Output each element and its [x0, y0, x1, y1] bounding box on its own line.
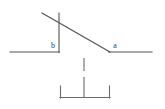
diagram-canvas: b a: [0, 0, 165, 109]
angle-diagram: b a: [0, 0, 165, 109]
angle-label-a: a: [113, 41, 117, 50]
angle-label-b: b: [51, 41, 55, 50]
